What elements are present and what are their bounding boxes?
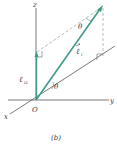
origin-label: O [32,106,38,114]
z-axis-label: z [32,1,37,9]
figure-caption: (b) [51,134,61,142]
angle-label-bottom: θ [54,83,59,91]
x-axis-label: x [4,113,8,121]
component-label: ℓ iz [19,75,28,85]
svg-text:ℓ: ℓ [76,47,80,56]
svg-text:ℓ: ℓ [19,75,23,84]
y-axis-label: y [109,97,115,105]
dashed-projection-line [37,7,102,52]
z-component-arrowhead [35,51,39,57]
vector-label: ℓ i [76,43,83,57]
main-vector [36,9,100,100]
svg-text:iz: iz [24,80,28,85]
vector-diagram: z y x O θ θ ℓ i ℓ iz (b) [0,0,117,146]
angle-label-top: θ [78,23,83,31]
vector-arrow-icon [76,43,80,46]
svg-text:i: i [81,52,83,57]
